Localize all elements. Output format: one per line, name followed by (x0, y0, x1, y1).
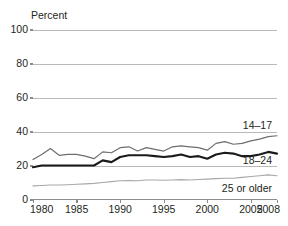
x-tick-label-2008: 2008 (257, 203, 281, 215)
x-tick-label-1995: 1995 (152, 203, 176, 215)
x-axis: 1980198519901995200020052008 (30, 200, 280, 215)
x-tick-label-1990: 1990 (108, 203, 132, 215)
series-label-14-17: 14–17 (243, 119, 272, 131)
series-lines (33, 136, 277, 186)
x-tick-label-1985: 1985 (65, 203, 89, 215)
y-tick-label-0: 0 (22, 193, 28, 205)
y-tick-label-20: 20 (16, 159, 28, 171)
y-tick-label-60: 60 (16, 91, 28, 103)
y-tick-label-80: 80 (16, 57, 28, 69)
series-labels: 14–1718–2425 or older (222, 119, 273, 194)
x-tick-label-1980: 1980 (30, 203, 54, 215)
y-tick-label-100: 100 (10, 23, 28, 35)
chart-canvas: Percent 020406080100 1980198519901995200… (0, 0, 288, 226)
line-chart: Percent 020406080100 1980198519901995200… (0, 0, 288, 226)
y-tick-label-40: 40 (16, 125, 28, 137)
x-tick-label-2000: 2000 (196, 203, 220, 215)
series-label-25-or-older: 25 or older (222, 182, 273, 194)
series-label-18-24: 18–24 (243, 154, 272, 166)
y-axis-unit-label: Percent (31, 9, 67, 21)
